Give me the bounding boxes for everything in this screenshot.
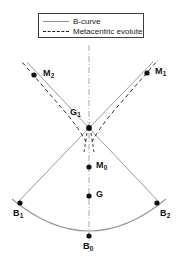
point-label-B2: B2: [160, 209, 170, 218]
point-label-M2: M2: [43, 69, 54, 78]
point-marker-G1: [86, 125, 92, 131]
diagram-canvas: [0, 0, 178, 267]
point-label-B1: B1: [13, 209, 23, 218]
point-label-M1: M1: [155, 67, 166, 76]
solid-line-key: [43, 17, 69, 26]
legend-label-b-curve: B-curve: [73, 18, 101, 26]
point-label-B0: B0: [83, 242, 93, 251]
legend-label-metacentric-evolute: Metacentric evolute: [73, 28, 142, 36]
point-marker-M1: [144, 70, 149, 75]
radius-line-left: [18, 128, 89, 202]
point-label-M0: M0: [96, 161, 107, 170]
metacentric-evolute-figure: M2 M1 G1 M0 G B1 B2 B0 B-curve Metacentr…: [0, 0, 178, 267]
evolute-cusp-tail-left: [84, 133, 87, 152]
point-label-G: G: [96, 190, 103, 199]
evolute-cusp-tail-right: [91, 133, 94, 152]
point-marker-B1: [17, 200, 22, 205]
legend-entry-metacentric-evolute: Metacentric evolute: [39, 26, 143, 37]
point-marker-B2: [154, 200, 159, 205]
upper-line-right: [89, 62, 153, 128]
upper-line-left: [27, 62, 89, 128]
legend: B-curve Metacentric evolute: [38, 13, 144, 38]
point-marker-B0: [86, 233, 91, 238]
point-marker-G: [86, 193, 91, 198]
dashed-line-key: [43, 27, 69, 36]
point-label-G1: G1: [70, 108, 81, 117]
point-marker-M2: [31, 72, 36, 77]
point-marker-M0: [86, 164, 91, 169]
